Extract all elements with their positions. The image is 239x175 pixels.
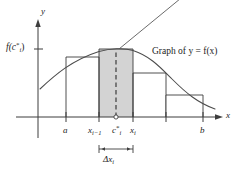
figure-canvas (0, 0, 239, 175)
x-i-sub: i (134, 129, 136, 136)
rectangle-1 (66, 57, 99, 117)
riemann-sum-figure: y x f(c*i) Graph of y = f(x) a xi−1 c*i … (0, 0, 239, 175)
y-axis-label: y (41, 7, 45, 16)
rectangle-4 (166, 95, 203, 117)
c-star-sub: i (120, 129, 122, 136)
delta-x-label: Δxi (103, 155, 114, 164)
tick-label-c-star: c*i (112, 126, 121, 135)
y-value-close: ) (21, 42, 24, 52)
x-axis-arrowhead (215, 114, 223, 119)
y-axis-arrowhead (35, 19, 40, 27)
c-star-point-marker (114, 115, 118, 119)
x-axis-label: x (226, 111, 230, 120)
tick-label-a: a (63, 126, 68, 135)
tick-label-x-prev: xi−1 (88, 126, 101, 135)
graph-caption: Graph of y = f(x) (152, 47, 218, 57)
y-value-star: * (16, 41, 20, 49)
delta-bracket-left-arrow (102, 147, 106, 150)
y-value-fc: f(c (6, 42, 16, 52)
y-value-label: f(c*i) (6, 43, 25, 53)
delta-x-base: Δx (103, 154, 112, 164)
rectangle-3 (133, 73, 166, 117)
tick-label-x-i: xi (130, 126, 136, 135)
delta-bracket-right-arrow (127, 147, 131, 150)
delta-x-sub: i (112, 158, 114, 165)
c-star-sup: * (116, 124, 120, 132)
tick-label-b: b (200, 126, 205, 135)
x-prev-sub: i−1 (92, 129, 101, 136)
caption-leader-line (119, 0, 186, 49)
